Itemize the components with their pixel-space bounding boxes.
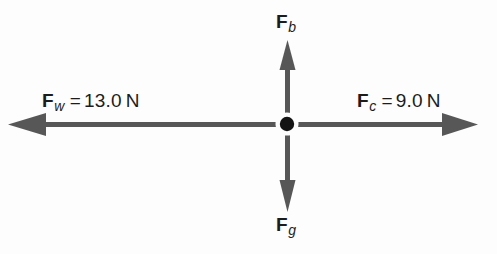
- arrowhead-fg: [280, 180, 296, 212]
- force-symbol-fg: F: [276, 214, 288, 235]
- force-arrow-fg: [280, 124, 296, 212]
- center-point-dot: [280, 117, 294, 131]
- force-unit-fc: N: [423, 90, 441, 111]
- force-value-fc: 9.0: [396, 90, 423, 111]
- force-subscript-fc: c: [369, 98, 377, 114]
- force-arrow-fw: [8, 113, 287, 136]
- force-value-fw: 13.0: [84, 90, 122, 111]
- force-arrow-fc: [287, 113, 478, 136]
- arrowhead-fc: [442, 113, 478, 136]
- force-label-fc: Fc=9.0N: [357, 91, 441, 113]
- force-diagram: Fw=13.0N Fc=9.0N Fb Fg: [0, 0, 497, 254]
- force-symbol-fc: F: [357, 90, 369, 111]
- force-vectors-canvas: [0, 0, 497, 254]
- force-label-fg: Fg: [276, 215, 296, 237]
- force-label-fw: Fw=13.0N: [42, 91, 140, 113]
- arrowhead-fw: [8, 113, 46, 136]
- equals-sign-fc: =: [377, 90, 396, 111]
- force-arrow-fb: [280, 40, 296, 124]
- force-unit-fw: N: [122, 90, 140, 111]
- force-subscript-fw: w: [54, 98, 65, 114]
- force-subscript-fg: g: [288, 222, 297, 238]
- force-subscript-fb: b: [288, 19, 297, 35]
- force-symbol-fw: F: [42, 90, 54, 111]
- force-label-fb: Fb: [276, 12, 296, 34]
- arrowhead-fb: [280, 40, 296, 70]
- force-symbol-fb: F: [276, 11, 288, 32]
- equals-sign-fw: =: [65, 90, 84, 111]
